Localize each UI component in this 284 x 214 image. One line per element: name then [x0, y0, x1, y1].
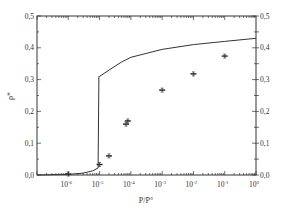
data-point: [190, 72, 196, 76]
y-tick-label-left: 0,0: [25, 171, 35, 180]
plot-frame: [37, 16, 256, 175]
plot-border: [37, 16, 256, 175]
y-tick-label-right: 0,3: [260, 75, 270, 84]
data-point: [222, 54, 228, 58]
x-axis-label: P/P°: [139, 196, 153, 205]
y-tick-label-left: 0,3: [25, 75, 35, 84]
adsorption-chart: 10-610-510-410-310-210-11000,00,10,20,30…: [0, 0, 284, 214]
x-tick-label: 10-5: [92, 180, 104, 189]
data-point: [97, 163, 103, 167]
y-tick-label-right: 0,0: [260, 171, 270, 180]
data-series: [37, 38, 256, 176]
y-tick-label-right: 0,5: [260, 12, 270, 21]
y-tick-label-right: 0,1: [260, 139, 270, 148]
x-tick-label: 10-3: [154, 180, 166, 189]
data-point: [159, 88, 165, 92]
y-tick-label-left: 0,2: [25, 107, 35, 116]
x-tick-label: 10-1: [217, 180, 229, 189]
x-tick-label: 10-6: [60, 180, 72, 189]
y-axis-label: ρ*: [6, 92, 15, 100]
data-point: [106, 154, 112, 158]
x-tick-label: 100: [249, 180, 260, 189]
y-tick-label-left: 0,5: [25, 12, 35, 21]
axis-ticks: [37, 16, 259, 175]
y-tick-label-right: 0,4: [260, 43, 270, 52]
tick-labels: 10-610-510-410-310-210-11000,00,10,20,30…: [25, 12, 270, 190]
y-tick-label-left: 0,1: [25, 139, 35, 148]
y-tick-label-right: 0,2: [260, 107, 270, 116]
y-tick-label-left: 0,4: [25, 43, 35, 52]
x-tick-label: 10-2: [186, 180, 198, 189]
x-tick-label: 10-4: [123, 180, 135, 189]
model-curve: [37, 38, 256, 175]
